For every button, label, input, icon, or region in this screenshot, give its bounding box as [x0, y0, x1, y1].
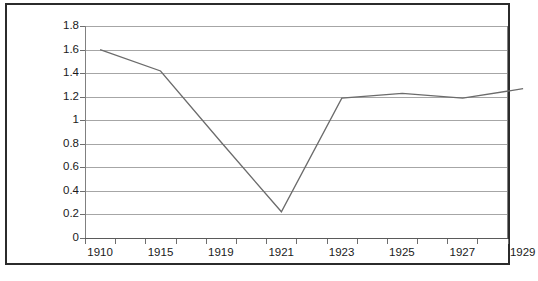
x-tick-mark — [327, 239, 328, 244]
y-tick-label: 0.4 — [63, 185, 79, 196]
x-tick-mark — [115, 239, 116, 244]
x-tick-mark — [85, 239, 86, 244]
y-tick-label: 1.8 — [63, 20, 79, 31]
y-tick-label: 1.6 — [63, 44, 79, 55]
y-tick-label: 0.2 — [63, 208, 79, 219]
y-tick-label: 0 — [73, 232, 79, 243]
x-tick-mark — [296, 239, 297, 244]
y-tick-label: 1.4 — [63, 67, 79, 78]
x-tick-label: 1910 — [87, 246, 113, 258]
x-tick-label: 1921 — [268, 246, 294, 258]
x-tick-mark — [387, 239, 388, 244]
x-tick-mark — [477, 239, 478, 244]
x-tick-label: 1915 — [148, 246, 174, 258]
x-tick-label: 1919 — [208, 246, 234, 258]
series-polyline — [100, 50, 523, 212]
data-series-line — [85, 26, 508, 239]
y-tick-label: 1 — [73, 114, 79, 125]
y-tick-label: 0.8 — [63, 138, 79, 149]
x-tick-label: 1927 — [450, 246, 476, 258]
x-tick-mark — [417, 239, 418, 244]
x-tick-mark — [236, 239, 237, 244]
y-axis-tick-labels: 1.8 1.6 1.4 1.2 1 0.8 0.6 0.4 0.2 0 — [33, 5, 79, 281]
x-tick-mark — [357, 239, 358, 244]
chart-frame: 1.8 1.6 1.4 1.2 1 0.8 0.6 0.4 0.2 0 1910… — [5, 3, 510, 265]
x-tick-label: 1923 — [329, 246, 355, 258]
caption-strip — [250, 273, 538, 281]
x-tick-mark — [176, 239, 177, 244]
figure: 1.8 1.6 1.4 1.2 1 0.8 0.6 0.4 0.2 0 1910… — [0, 0, 538, 281]
x-tick-mark — [447, 239, 448, 244]
x-tick-mark — [206, 239, 207, 244]
x-tick-mark — [508, 239, 509, 244]
y-tick-label: 0.6 — [63, 161, 79, 172]
x-tick-label: 1925 — [389, 246, 415, 258]
x-tick-label: 1929 — [510, 246, 536, 258]
y-tick-label: 1.2 — [63, 91, 79, 102]
x-tick-mark — [266, 239, 267, 244]
x-tick-mark — [145, 239, 146, 244]
